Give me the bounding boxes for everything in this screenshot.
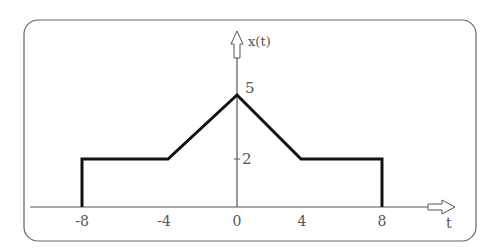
signal-curve xyxy=(82,95,382,207)
y-axis-label: x(t) xyxy=(248,34,271,49)
x-tick-label-4: 4 xyxy=(298,213,307,229)
x-axis-label: t xyxy=(446,215,452,231)
x-tick-label-neg4: -4 xyxy=(157,213,171,229)
plot-frame xyxy=(24,20,476,241)
x-tick-label-neg8: -8 xyxy=(75,213,89,229)
y-axis-arrow-icon xyxy=(231,31,243,58)
y-tick-label-5: 5 xyxy=(245,79,255,97)
t-axis-arrow-icon xyxy=(428,200,455,214)
x-tick-label-8: 8 xyxy=(378,213,387,229)
x-tick-label-0: 0 xyxy=(233,213,242,229)
signal-plot: x(t) t 5 2 -8 -4 0 4 8 xyxy=(0,0,497,251)
y-tick-label-2: 2 xyxy=(242,150,252,168)
